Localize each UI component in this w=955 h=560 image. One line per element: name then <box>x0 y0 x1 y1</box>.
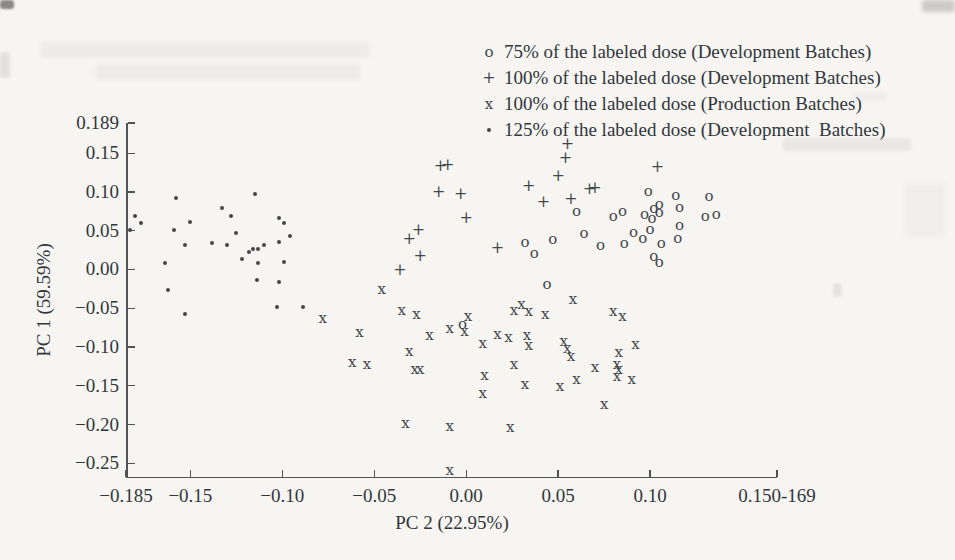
data-point-plus-marker: + <box>393 262 406 278</box>
x-tick-label: −0.15 <box>145 486 235 506</box>
data-point-dot-marker <box>282 221 286 225</box>
data-point-circle-marker: o <box>618 204 627 219</box>
x-axis-tick <box>466 470 467 477</box>
data-point-plus-marker: + <box>588 180 601 196</box>
data-point-dot-marker <box>262 243 266 247</box>
x-tick-label: −0.10 <box>237 486 327 506</box>
data-point-circle-marker: o <box>629 224 638 239</box>
x-axis-tick <box>776 470 777 477</box>
dot-glyph <box>487 128 491 132</box>
data-point-dot-marker <box>275 305 279 309</box>
data-point-dot-marker <box>210 241 214 245</box>
x-axis-tick <box>282 470 283 477</box>
data-point-dot-marker <box>229 214 233 218</box>
data-point-plus-marker: + <box>522 178 535 194</box>
data-point-dot-marker <box>172 228 176 232</box>
data-point-dot-marker <box>301 305 305 309</box>
y-tick-label: −0.20 <box>43 415 119 435</box>
data-point-x-marker: x <box>398 302 406 317</box>
data-point-plus-marker: + <box>441 157 454 173</box>
data-point-x-marker: x <box>445 320 453 335</box>
x-axis-title: PC 2 (22.95%) <box>395 512 508 534</box>
data-point-dot-marker <box>183 243 187 247</box>
data-point-dot-marker <box>255 278 259 282</box>
data-point-circle-marker: o <box>704 188 713 203</box>
x-tick-label: 0.150-169 <box>732 486 822 506</box>
dot-marker-icon <box>478 128 500 132</box>
data-point-x-marker: x <box>377 281 385 296</box>
legend-item-label: 125% of the labeled dose (Development Ba… <box>500 119 885 141</box>
y-axis-tick <box>128 191 135 192</box>
data-point-x-marker: x <box>541 307 549 322</box>
data-point-dot-marker <box>163 261 167 265</box>
data-point-dot-marker <box>256 247 260 251</box>
data-point-circle-marker: o <box>609 209 618 224</box>
data-point-x-marker: x <box>405 343 413 358</box>
data-point-x-marker: x <box>591 360 599 375</box>
data-point-circle-marker: o <box>673 231 682 246</box>
data-point-circle-marker: o <box>638 230 647 245</box>
data-point-plus-marker: + <box>454 186 467 202</box>
data-point-x-marker: x <box>569 291 577 306</box>
data-point-dot-marker <box>139 221 143 225</box>
y-axis-tick <box>128 385 135 386</box>
legend-item-label: 75% of the labeled dose (Development Bat… <box>500 41 871 63</box>
data-point-x-marker: x <box>425 328 433 343</box>
x-axis-tick <box>557 470 558 477</box>
data-point-x-marker: x <box>631 336 639 351</box>
legend-item: o75% of the labeled dose (Development Ba… <box>478 39 885 65</box>
scanned-book-page: PC 1 (59.59%) PC 2 (22.95%) o75% of the … <box>0 0 955 560</box>
x-axis-tick <box>649 470 650 477</box>
data-point-x-marker: x <box>355 324 363 339</box>
data-point-dot-marker <box>277 280 281 284</box>
data-point-x-marker: x <box>479 385 487 400</box>
y-tick-label: −0.05 <box>43 298 119 318</box>
data-point-circle-marker: o <box>644 184 653 199</box>
data-point-circle-marker: o <box>620 236 629 251</box>
data-point-plus-marker: + <box>537 194 550 210</box>
data-point-dot-marker <box>225 243 229 247</box>
data-point-x-marker: x <box>572 371 580 386</box>
pca-score-scatter-chart: PC 1 (59.59%) PC 2 (22.95%) o75% of the … <box>0 0 955 560</box>
plus-glyph: + <box>482 70 495 86</box>
legend-item: 125% of the labeled dose (Development Ba… <box>478 117 885 143</box>
data-point-x-marker: x <box>567 348 575 363</box>
data-point-dot-marker <box>183 312 187 316</box>
y-axis-tick <box>128 153 135 154</box>
y-tick-label: 0.05 <box>43 221 119 241</box>
data-point-plus-marker: + <box>651 159 664 175</box>
legend-item: x100% of the labeled dose (Production Ba… <box>478 91 885 117</box>
data-point-x-marker: x <box>525 304 533 319</box>
data-point-x-marker: x <box>445 463 453 478</box>
data-point-x-marker: x <box>525 337 533 352</box>
x-tick-label: 0.10 <box>605 486 695 506</box>
data-point-x-marker: x <box>348 354 356 369</box>
data-point-x-marker: x <box>479 336 487 351</box>
data-point-dot-marker <box>251 247 255 251</box>
data-point-x-marker: x <box>613 368 621 383</box>
data-point-plus-marker: + <box>491 240 504 256</box>
data-point-plus-marker: + <box>559 150 572 166</box>
data-point-plus-marker: + <box>403 231 416 247</box>
x-glyph: x <box>485 97 493 112</box>
data-point-dot-marker <box>282 260 286 264</box>
y-axis-tick <box>128 308 135 309</box>
circle-marker-icon: o <box>478 45 500 60</box>
data-point-plus-marker: + <box>551 168 564 184</box>
data-point-x-marker: x <box>504 329 512 344</box>
data-point-circle-marker: o <box>530 246 539 261</box>
y-tick-label: −0.15 <box>43 376 119 396</box>
data-point-dot-marker <box>166 288 170 292</box>
data-point-dot-marker <box>174 196 178 200</box>
y-axis-tick <box>128 122 135 123</box>
data-point-x-marker: x <box>445 419 453 434</box>
x-tick-label: 0.05 <box>513 486 603 506</box>
data-point-dot-marker <box>277 216 281 220</box>
data-point-dot-marker <box>128 228 132 232</box>
data-point-circle-marker: o <box>548 232 557 247</box>
legend-item-label: 100% of the labeled dose (Development Ba… <box>500 67 881 89</box>
x-tick-label: 0.00 <box>421 486 511 506</box>
y-axis-tick <box>128 346 135 347</box>
y-tick-label: 0.00 <box>43 259 119 279</box>
data-point-dot-marker <box>240 257 244 261</box>
